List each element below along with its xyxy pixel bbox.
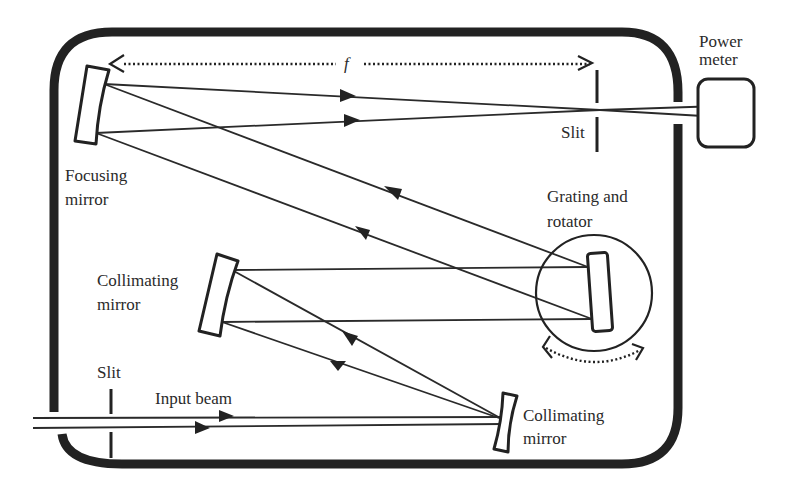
collimating-mirror-lower: Collimating mirror — [494, 393, 605, 452]
collimating-mirror-2-label-line2: mirror — [523, 429, 567, 448]
arrow-right-icon — [344, 114, 360, 127]
entrance-slit: Slit — [97, 363, 121, 458]
arrow-right-icon — [195, 421, 210, 434]
collimating-mirror-1-label-line2: mirror — [97, 295, 141, 314]
arrow-left-icon — [330, 361, 346, 371]
focal-length-indicator: f — [110, 54, 592, 73]
arrow-left-icon — [355, 226, 370, 240]
power-meter-label-line2: meter — [699, 50, 738, 69]
arrow-right-icon — [340, 89, 356, 102]
arrow-right-icon — [219, 410, 234, 422]
grating-label-line1: Grating and — [547, 187, 628, 206]
power-meter-label-line1: Power — [699, 32, 743, 51]
exit-slit-label: Slit — [561, 123, 585, 142]
power-meter: Power meter — [698, 32, 754, 147]
collimating-mirror-upper: Collimating mirror — [97, 254, 238, 336]
focal-length-label: f — [344, 54, 351, 73]
grating-label-line2: rotator — [547, 212, 593, 231]
grating-rotator: Grating and rotator — [536, 187, 652, 362]
monochromator-diagram: f Slit Power — [0, 0, 788, 497]
input-beam-label: Input beam — [155, 389, 232, 408]
arrow-left-icon — [384, 186, 402, 200]
collimating-mirror-2-label-line1: Collimating — [523, 406, 605, 425]
focusing-mirror-label-line1: Focusing — [65, 166, 128, 185]
entrance-slit-label: Slit — [97, 363, 121, 382]
beam-paths — [33, 84, 720, 428]
arrow-left-icon — [342, 331, 358, 346]
collimating-mirror-1-label-line1: Collimating — [97, 271, 179, 290]
focusing-mirror: Focusing mirror — [65, 66, 128, 209]
focusing-mirror-label-line2: mirror — [65, 190, 109, 209]
enclosure-frame — [54, 32, 678, 464]
